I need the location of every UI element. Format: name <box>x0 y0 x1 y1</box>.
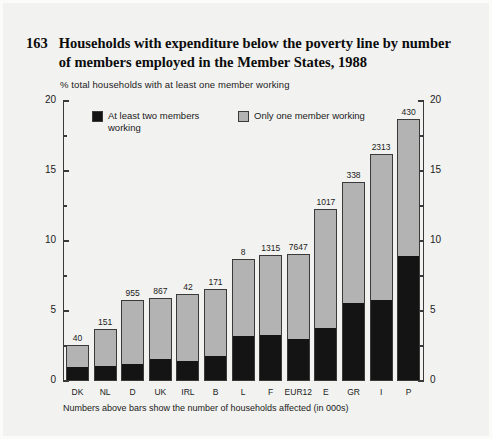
legend-swatch-light-icon <box>238 111 249 122</box>
bar-value-label: 867 <box>153 286 167 296</box>
bar-group <box>176 294 199 381</box>
y-axis-left-minor-tick <box>63 275 67 276</box>
chart-legend: At least two members working Only one me… <box>92 110 365 133</box>
bar-value-label: 7647 <box>289 242 308 252</box>
y-axis-right-tick-label: 0 <box>430 374 436 385</box>
bar-segment-only-one-member <box>176 294 199 361</box>
bar-segment-at-least-two-members <box>259 335 282 381</box>
chart-footnote: Numbers above bars show the number of ho… <box>63 403 349 413</box>
bar-segment-only-one-member <box>259 255 282 335</box>
y-axis-right-tick-label: 20 <box>430 94 441 105</box>
bar-segment-at-least-two-members <box>66 367 89 381</box>
bar-segment-at-least-two-members <box>94 366 117 381</box>
bar-value-label: 8 <box>241 247 246 257</box>
y-axis-left-tick <box>63 170 69 171</box>
bar-value-label: 171 <box>208 277 222 287</box>
x-axis-category-label: E <box>323 387 329 397</box>
y-axis-right-tick-label: 15 <box>430 164 441 175</box>
bar-segment-only-one-member <box>287 254 310 339</box>
x-axis-category-label: P <box>406 387 412 397</box>
x-axis-category-label: B <box>213 387 219 397</box>
bar-segment-only-one-member <box>66 345 89 367</box>
y-axis-right-tick <box>418 100 424 101</box>
bar-value-label: 40 <box>73 333 82 343</box>
y-axis-right-minor-tick <box>420 205 424 206</box>
y-axis-right-minor-tick <box>420 345 424 346</box>
x-axis-category-label: L <box>241 387 246 397</box>
bar-group <box>287 254 310 381</box>
x-axis-category-label: DK <box>72 387 84 397</box>
bar-value-label: 430 <box>402 107 416 117</box>
bar-segment-only-one-member <box>149 298 172 358</box>
bar-segment-only-one-member <box>232 259 255 336</box>
bar-group <box>397 119 420 381</box>
legend-label-only-one: Only one member working <box>254 110 365 122</box>
bar-segment-at-least-two-members <box>397 256 420 381</box>
bar-value-label: 42 <box>183 282 192 292</box>
bar-group <box>314 209 337 381</box>
bar-group <box>66 345 89 381</box>
y-axis-left-tick <box>63 100 69 101</box>
bar-segment-only-one-member <box>121 300 144 364</box>
bar-group <box>370 154 393 381</box>
x-axis-category-label: D <box>130 387 136 397</box>
bar-value-label: 151 <box>98 317 112 327</box>
legend-item-at-least-two: At least two members working <box>92 110 220 133</box>
bar-value-label: 955 <box>126 288 140 298</box>
x-axis-category-label: NL <box>100 387 111 397</box>
bar-group <box>342 182 365 381</box>
y-axis-left-minor-tick <box>63 205 67 206</box>
y-axis-right-minor-tick <box>420 135 424 136</box>
legend-label-at-least-two: At least two members working <box>108 110 220 133</box>
bar-segment-only-one-member <box>342 182 365 302</box>
legend-item-only-one: Only one member working <box>238 110 365 122</box>
y-axis-right-tick-label: 10 <box>430 234 441 245</box>
chart-plot-area: 2020151510105500 40DK151NL955D867UK42IRL… <box>0 0 492 439</box>
bar-value-label: 2313 <box>372 142 391 152</box>
bar-segment-at-least-two-members <box>287 339 310 381</box>
bar-value-label: 1017 <box>316 197 335 207</box>
x-axis-category-label: GR <box>347 387 360 397</box>
x-axis-category-label: F <box>268 387 273 397</box>
legend-swatch-dark-icon <box>92 111 103 122</box>
bar-group <box>94 329 117 381</box>
bar-segment-at-least-two-members <box>370 300 393 381</box>
bar-group <box>121 300 144 381</box>
bar-segment-only-one-member <box>370 154 393 300</box>
figure-page: 163 Households with expenditure below th… <box>0 0 492 439</box>
bar-segment-at-least-two-members <box>342 303 365 381</box>
bar-segment-at-least-two-members <box>176 361 199 381</box>
bar-segment-only-one-member <box>204 289 227 356</box>
y-axis-right-minor-tick <box>420 275 424 276</box>
x-axis-category-label: IRL <box>181 387 194 397</box>
bar-segment-only-one-member <box>94 329 117 365</box>
y-axis-left-tick-label: 5 <box>26 304 56 315</box>
x-axis-category-label: EUR12 <box>285 387 312 397</box>
y-axis-left-minor-tick <box>63 135 67 136</box>
bar-segment-at-least-two-members <box>121 364 144 381</box>
bar-group <box>232 259 255 381</box>
bar-segment-at-least-two-members <box>232 336 255 381</box>
bar-group <box>204 289 227 381</box>
y-axis-left-tick-label: 0 <box>26 374 56 385</box>
bar-segment-at-least-two-members <box>314 328 337 381</box>
bar-segment-only-one-member <box>314 209 337 328</box>
y-axis-left-tick-label: 20 <box>26 94 56 105</box>
y-axis-left-tick <box>63 310 69 311</box>
y-axis-right-tick-label: 5 <box>430 304 436 315</box>
bar-value-label: 1315 <box>261 243 280 253</box>
x-axis-category-label: UK <box>154 387 166 397</box>
bar-segment-only-one-member <box>397 119 420 256</box>
bar-value-label: 338 <box>346 170 360 180</box>
bar-segment-at-least-two-members <box>149 359 172 381</box>
bar-group <box>149 298 172 381</box>
bar-group <box>259 255 282 381</box>
y-axis-left-tick <box>63 240 69 241</box>
y-axis-left-tick-label: 10 <box>26 234 56 245</box>
y-axis-left-tick-label: 15 <box>26 164 56 175</box>
bar-segment-at-least-two-members <box>204 356 227 381</box>
x-axis-category-label: I <box>380 387 382 397</box>
